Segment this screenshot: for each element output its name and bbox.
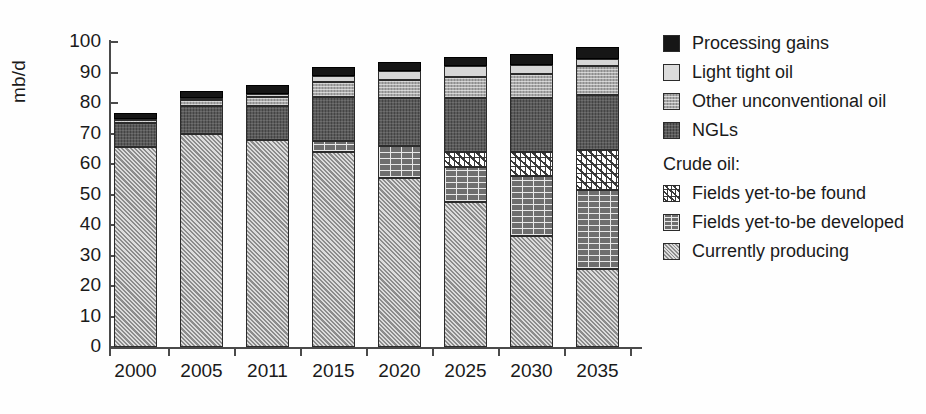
legend-swatch-icon bbox=[663, 93, 680, 110]
bar-segment bbox=[510, 98, 553, 151]
bar-segment bbox=[510, 236, 553, 347]
bar-segment bbox=[180, 100, 223, 106]
bar-segment bbox=[576, 47, 619, 59]
legend-swatch-icon bbox=[663, 243, 680, 260]
bar-segment bbox=[312, 97, 355, 141]
y-tick-label: 60 bbox=[80, 152, 101, 174]
bar-2035[interactable] bbox=[576, 42, 619, 347]
x-tick-mark bbox=[564, 349, 566, 356]
legend-item[interactable]: Light tight oil bbox=[663, 62, 923, 82]
x-axis-label-2011: 2011 bbox=[235, 360, 301, 382]
bar-segment bbox=[510, 176, 553, 235]
bar-2025[interactable] bbox=[444, 42, 487, 347]
legend-swatch-icon bbox=[663, 185, 680, 202]
x-tick-mark bbox=[300, 349, 302, 356]
y-tick-label: 0 bbox=[90, 335, 101, 357]
bar-segment bbox=[246, 85, 289, 94]
bar-segment bbox=[378, 146, 421, 178]
x-axis-label-2015: 2015 bbox=[301, 360, 367, 382]
legend-item-label: Light tight oil bbox=[692, 62, 793, 83]
x-tick-mark bbox=[109, 349, 111, 356]
legend-item-label: NGLs bbox=[692, 120, 738, 141]
legend-swatch-icon bbox=[663, 64, 680, 81]
x-axis-label-2030: 2030 bbox=[499, 360, 565, 382]
bar-segment bbox=[114, 147, 157, 347]
bar-segment bbox=[312, 67, 355, 76]
chart-figure: mb/d 1009080706050403020100 Processing g… bbox=[0, 0, 926, 414]
bar-segment bbox=[444, 152, 487, 167]
bar-segment bbox=[576, 269, 619, 347]
y-tick-label: 10 bbox=[80, 305, 101, 327]
bar-segment bbox=[444, 66, 487, 77]
legend-item[interactable]: Processing gains bbox=[663, 33, 923, 53]
bar-segment bbox=[378, 80, 421, 98]
legend-item-label: Currently producing bbox=[692, 241, 849, 262]
bar-2020[interactable] bbox=[378, 42, 421, 347]
bar-segment bbox=[312, 76, 355, 82]
bar-segment bbox=[576, 150, 619, 190]
legend-item[interactable]: Currently producing bbox=[663, 241, 923, 261]
bar-segment bbox=[114, 113, 157, 119]
legend-item[interactable]: Fields yet-to-be developed bbox=[663, 212, 923, 232]
bar-segment bbox=[312, 82, 355, 97]
y-tick-label: 80 bbox=[80, 91, 101, 113]
legend-item-label: Fields yet-to-be found bbox=[692, 183, 866, 204]
x-tick-mark bbox=[498, 349, 500, 356]
bar-2000[interactable] bbox=[114, 42, 157, 347]
bar-segment bbox=[576, 66, 619, 95]
legend-item[interactable]: NGLs bbox=[663, 120, 923, 140]
x-tick-mark bbox=[234, 349, 236, 356]
bar-segment bbox=[444, 57, 487, 67]
bar-segment bbox=[378, 62, 421, 71]
legend-swatch-icon bbox=[663, 122, 680, 139]
x-tick-mark bbox=[630, 349, 632, 356]
bar-segment bbox=[246, 106, 289, 140]
chart-legend: Processing gainsLight tight oilOther unc… bbox=[663, 33, 923, 270]
y-tick-label: 30 bbox=[80, 244, 101, 266]
x-axis-line bbox=[109, 347, 642, 349]
bar-segment bbox=[114, 120, 157, 123]
legend-item-label: Fields yet-to-be developed bbox=[692, 212, 904, 233]
y-tick-label: 70 bbox=[80, 122, 101, 144]
bar-segment bbox=[510, 54, 553, 65]
bar-segment bbox=[576, 95, 619, 150]
bar-segment bbox=[444, 98, 487, 151]
bar-segment bbox=[510, 152, 553, 176]
legend-item-label: Other unconventional oil bbox=[692, 91, 886, 112]
x-tick-mark bbox=[432, 349, 434, 356]
bar-segment bbox=[576, 190, 619, 269]
bar-segment bbox=[378, 98, 421, 145]
bar-segment bbox=[246, 140, 289, 347]
bar-segment bbox=[246, 97, 289, 106]
bar-segment bbox=[510, 65, 553, 74]
bar-segment bbox=[180, 106, 223, 133]
bar-2011[interactable] bbox=[246, 42, 289, 347]
bar-2015[interactable] bbox=[312, 42, 355, 347]
legend-item[interactable]: Other unconventional oil bbox=[663, 91, 923, 111]
legend-swatch-icon bbox=[663, 214, 680, 231]
legend-item-label: Processing gains bbox=[692, 33, 829, 54]
bar-2030[interactable] bbox=[510, 42, 553, 347]
legend-swatch-icon bbox=[663, 35, 680, 52]
legend-group-title: Crude oil: bbox=[663, 154, 923, 175]
y-tick-label: 50 bbox=[80, 183, 101, 205]
x-axis-label-2035: 2035 bbox=[565, 360, 631, 382]
bar-2005[interactable] bbox=[180, 42, 223, 347]
plot-area: 1009080706050403020100 bbox=[111, 42, 641, 347]
bar-segment bbox=[378, 178, 421, 347]
x-axis-label-2020: 2020 bbox=[367, 360, 433, 382]
x-axis-label-2005: 2005 bbox=[169, 360, 235, 382]
bar-segment bbox=[444, 77, 487, 98]
y-tick-label: 90 bbox=[80, 61, 101, 83]
legend-item[interactable]: Fields yet-to-be found bbox=[663, 183, 923, 203]
bar-segment bbox=[510, 74, 553, 98]
y-tick-label: 100 bbox=[69, 30, 101, 52]
bar-segment bbox=[180, 134, 223, 348]
bar-segment bbox=[444, 202, 487, 347]
x-axis-label-2025: 2025 bbox=[433, 360, 499, 382]
bar-segment bbox=[378, 71, 421, 80]
x-axis-label-2000: 2000 bbox=[103, 360, 169, 382]
bar-segment bbox=[246, 94, 289, 97]
bar-segment bbox=[312, 152, 355, 347]
bar-segment bbox=[312, 141, 355, 152]
